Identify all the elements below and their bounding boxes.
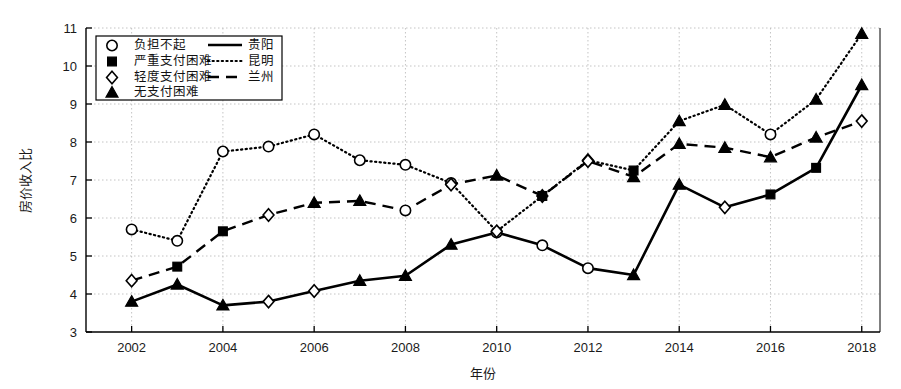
data-point bbox=[173, 262, 182, 271]
data-point bbox=[812, 163, 821, 172]
y-tick-label: 10 bbox=[63, 59, 77, 74]
data-point bbox=[400, 205, 410, 215]
x-tick-label: 2012 bbox=[573, 340, 602, 355]
data-point bbox=[538, 192, 547, 201]
legend-line-label: 兰州 bbox=[248, 69, 274, 84]
data-point bbox=[583, 263, 593, 273]
y-tick-label: 11 bbox=[64, 21, 78, 36]
x-tick-label: 2016 bbox=[756, 340, 785, 355]
y-tick-label: 7 bbox=[70, 173, 77, 188]
y-axis-title: 房价收入比 bbox=[18, 148, 33, 213]
x-tick-label: 2008 bbox=[391, 340, 420, 355]
data-point bbox=[355, 155, 365, 165]
legend-line-label: 昆明 bbox=[248, 53, 274, 68]
chart-figure: 3456789101120022004200620082010201220142… bbox=[0, 0, 901, 389]
data-point bbox=[126, 224, 136, 234]
y-tick-label: 6 bbox=[70, 211, 77, 226]
data-point bbox=[172, 236, 182, 246]
x-tick-label: 2006 bbox=[300, 340, 329, 355]
y-tick-label: 5 bbox=[70, 249, 77, 264]
chart-svg: 3456789101120022004200620082010201220142… bbox=[0, 0, 901, 389]
y-tick-label: 9 bbox=[70, 97, 77, 112]
legend-marker-label: 轻度支付困难 bbox=[134, 69, 212, 84]
data-point bbox=[765, 129, 775, 139]
legend-marker-label: 严重支付困难 bbox=[134, 53, 212, 68]
legend-marker-label: 无支付困难 bbox=[134, 84, 199, 99]
legend-square-filled-icon bbox=[108, 57, 117, 66]
data-point bbox=[537, 240, 547, 250]
x-axis-title: 年份 bbox=[470, 366, 496, 381]
data-point bbox=[766, 190, 775, 199]
data-point bbox=[309, 129, 319, 139]
legend-circle-open-icon bbox=[107, 40, 117, 50]
legend-line-label: 贵阳 bbox=[248, 37, 274, 52]
data-point bbox=[263, 141, 273, 151]
x-tick-label: 2010 bbox=[482, 340, 511, 355]
data-point bbox=[218, 146, 228, 156]
x-tick-label: 2018 bbox=[847, 340, 876, 355]
x-tick-label: 2004 bbox=[208, 340, 237, 355]
data-point bbox=[400, 160, 410, 170]
data-point bbox=[218, 227, 227, 236]
legend: 负担不起严重支付困难轻度支付困难无支付困难贵阳昆明兰州 bbox=[96, 36, 282, 100]
y-tick-label: 3 bbox=[70, 325, 77, 340]
y-tick-label: 8 bbox=[70, 135, 77, 150]
x-tick-label: 2014 bbox=[665, 340, 694, 355]
y-tick-label: 4 bbox=[70, 287, 77, 302]
x-tick-label: 2002 bbox=[117, 340, 146, 355]
legend-marker-label: 负担不起 bbox=[134, 37, 186, 52]
